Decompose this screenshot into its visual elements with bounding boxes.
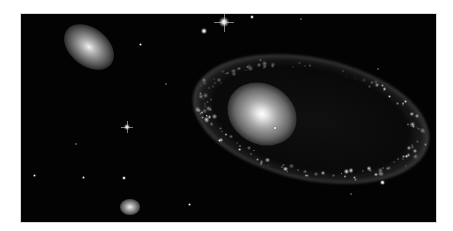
small-galaxy bbox=[120, 199, 140, 215]
ring-knot bbox=[405, 165, 407, 167]
ring-knot bbox=[383, 87, 386, 90]
ring-knot bbox=[202, 98, 204, 100]
star-icon bbox=[122, 176, 126, 180]
star-icon bbox=[75, 143, 77, 145]
ring-knot bbox=[362, 78, 365, 81]
ring-galaxy-ring bbox=[181, 34, 437, 203]
star-icon bbox=[377, 68, 379, 70]
ring-knot bbox=[396, 102, 398, 104]
ring-knot bbox=[332, 174, 335, 177]
ring-knot bbox=[309, 64, 311, 66]
star-icon bbox=[82, 176, 85, 179]
ring-knot bbox=[237, 67, 240, 70]
elliptical-galaxy bbox=[55, 15, 123, 79]
ring-knot bbox=[404, 100, 407, 103]
ring-knot bbox=[250, 153, 252, 155]
ring-knot bbox=[265, 158, 270, 163]
ring-knot bbox=[344, 175, 346, 177]
ring-knot bbox=[402, 102, 405, 105]
ring-knot bbox=[374, 173, 378, 177]
ring-knot bbox=[304, 65, 306, 67]
star-icon bbox=[165, 83, 167, 85]
ring-knot bbox=[381, 84, 384, 87]
ring-knot bbox=[248, 66, 253, 71]
ring-knot bbox=[344, 169, 349, 174]
ring-knot bbox=[281, 166, 283, 168]
ring-knot bbox=[378, 171, 382, 175]
ring-knot bbox=[232, 72, 236, 76]
ring-knot bbox=[298, 62, 300, 64]
star-icon bbox=[410, 113, 412, 115]
star-icon bbox=[139, 43, 142, 46]
ring-knot bbox=[289, 164, 293, 168]
ring-knot bbox=[271, 62, 275, 66]
galaxy-photo bbox=[20, 13, 437, 223]
ring-knot bbox=[212, 85, 215, 88]
ring-knot bbox=[368, 85, 371, 88]
ring-knot bbox=[413, 154, 418, 159]
star-spike bbox=[127, 121, 128, 133]
ring-knot bbox=[208, 87, 210, 89]
star-spike bbox=[224, 13, 225, 32]
ring-knot bbox=[259, 59, 261, 61]
ring-knot bbox=[221, 131, 223, 133]
ring-knot bbox=[202, 78, 206, 82]
ring-knot bbox=[247, 146, 251, 150]
ring-knot bbox=[413, 149, 417, 153]
ring-knot bbox=[287, 171, 289, 173]
ring-knot bbox=[205, 119, 209, 123]
star-icon bbox=[201, 28, 207, 34]
ring-knot bbox=[203, 93, 208, 98]
ring-knot bbox=[199, 112, 202, 115]
star-icon bbox=[300, 18, 302, 20]
star-icon bbox=[250, 15, 254, 19]
star-icon bbox=[350, 193, 352, 195]
star-icon bbox=[33, 174, 36, 177]
star-icon bbox=[260, 163, 262, 165]
ring-knot bbox=[410, 122, 415, 127]
star-icon bbox=[273, 126, 277, 130]
ring-knot bbox=[393, 161, 395, 163]
star-icon bbox=[380, 180, 385, 185]
ring-knot bbox=[305, 174, 307, 176]
ring-knot bbox=[407, 123, 410, 126]
ring-knot bbox=[387, 166, 391, 170]
ring-knot bbox=[229, 135, 232, 138]
ring-knot bbox=[314, 172, 318, 176]
star-icon bbox=[218, 139, 221, 142]
ring-knot bbox=[206, 106, 210, 110]
ring-knot bbox=[297, 169, 299, 171]
ring-knot bbox=[214, 82, 216, 84]
ring-knot bbox=[204, 103, 206, 105]
ring-knot bbox=[225, 133, 228, 136]
ring-knot bbox=[226, 72, 228, 74]
star-icon bbox=[188, 203, 191, 206]
